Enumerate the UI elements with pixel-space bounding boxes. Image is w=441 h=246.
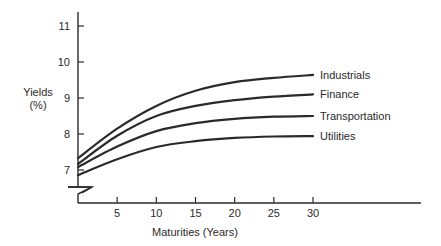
y-tick-label: 10 bbox=[58, 56, 70, 68]
x-axis-title: Maturities (Years) bbox=[152, 226, 238, 238]
y-tick-label: 11 bbox=[59, 20, 70, 32]
yield-curve-chart: 510152025307891011 Maturities (Years)Yie… bbox=[0, 0, 441, 246]
axis-break-lower bbox=[68, 187, 92, 203]
x-tick-label: 15 bbox=[189, 207, 201, 219]
x-tick-label: 5 bbox=[114, 207, 120, 219]
x-tick-label: 20 bbox=[229, 207, 241, 219]
y-tick-label: 9 bbox=[64, 92, 70, 104]
x-tick-label: 30 bbox=[307, 207, 319, 219]
x-tick-label: 25 bbox=[268, 207, 280, 219]
y-axis-title: Yields bbox=[23, 86, 53, 98]
series-label-industrials: Industrials bbox=[320, 69, 371, 81]
x-tick-label: 10 bbox=[150, 207, 162, 219]
y-tick-label: 8 bbox=[64, 128, 70, 140]
y-tick-label: 7 bbox=[64, 164, 70, 176]
series-label-finance: Finance bbox=[320, 88, 359, 100]
curve-finance bbox=[78, 94, 313, 163]
yield-curves bbox=[78, 75, 313, 175]
curve-utilities bbox=[78, 136, 313, 175]
y-axis-title: (%) bbox=[29, 99, 46, 111]
series-label-transportation: Transportation bbox=[320, 110, 391, 122]
axis-break-icon bbox=[68, 187, 92, 193]
series-label-utilities: Utilities bbox=[320, 130, 356, 142]
